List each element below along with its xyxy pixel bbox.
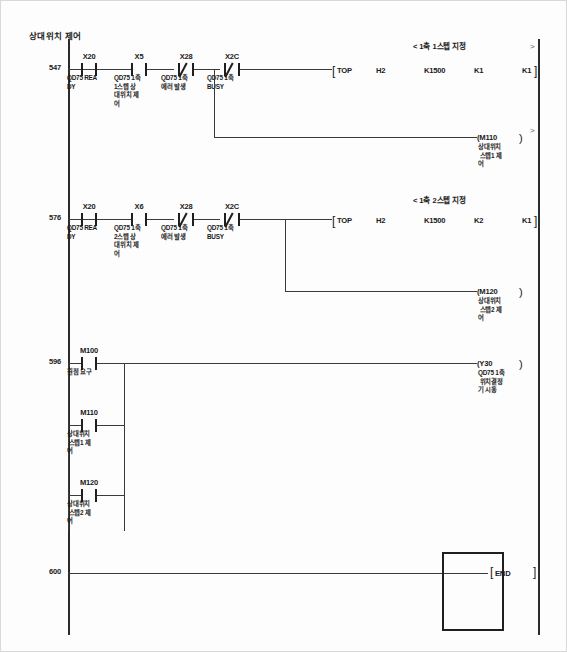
contact-bar-right [145, 213, 147, 226]
coil-comment-m110: 상대위치 스텝1 제 어 [478, 143, 502, 169]
contact-comment-x28-547: QD75 1축 에러 발생 [161, 74, 187, 91]
rung-547-power-line-3 [147, 69, 174, 70]
instruction-arg-0: H2 [376, 66, 385, 75]
coil-close-paren: ) [519, 286, 522, 298]
rung-596-power-line-b [97, 363, 477, 364]
contact-label: M120 [80, 478, 98, 487]
contact-label: X2C [225, 202, 239, 211]
contact-bar-right [192, 63, 194, 76]
rung-547-power-line-4 [194, 69, 220, 70]
contact-comment-x6-576: QD75 1축 2스텝 상 대위치 제 어 [114, 224, 140, 258]
coil-close-paren: ) [519, 358, 522, 370]
contact-label: X28 [180, 202, 193, 211]
rung-number-547: 547 [49, 63, 61, 72]
contact-bar-right [145, 63, 147, 76]
rung-number-576: 576 [49, 213, 61, 222]
rung-547-power-line-2 [97, 69, 126, 70]
instruction-open-bracket: [ [332, 214, 335, 228]
edge-marker-top: > [530, 42, 535, 51]
rung-596-branch-m110-line-b [97, 425, 124, 426]
instruction-opcode: TOP [337, 66, 352, 75]
contact-comment-x2c-576: QD75 1축 BUSY [207, 224, 233, 241]
rung-576-coil-line [285, 291, 477, 292]
contact-label: M110 [80, 408, 98, 417]
rung-576-branch-vertical [285, 219, 286, 291]
contact-comment-x28-576: QD75 1축 에러 발생 [161, 224, 187, 241]
rung-number-596: 596 [49, 357, 61, 366]
instruction-opcode: TOP [337, 216, 352, 225]
instruction-arg-2: K1 [474, 66, 483, 75]
rung-576-power-line-3 [147, 219, 174, 220]
instruction-arg-3: K1 [522, 216, 531, 225]
end-opcode: END [495, 569, 510, 578]
instruction-arg-2: K2 [474, 216, 483, 225]
left-power-rail [68, 39, 70, 635]
contact-comment-m100-596: 원점 요구 [67, 368, 92, 377]
ladder-diagram-page: 상대위치 제어 > > 547 < 1축 1스텝 지정 X20 QD75 REA… [0, 0, 567, 652]
instruction-close-bracket: ] [534, 64, 537, 78]
rung-600-power-line [68, 573, 488, 574]
rung-596-branch-m110-line-a [68, 425, 81, 426]
coil-comment-m120: 상대위치 스텝2 제 어 [478, 297, 502, 323]
contact-label: X6 [135, 202, 144, 211]
instruction-arg-1: K1500 [424, 216, 445, 225]
rung-statement-576: < 1축 2스텝 지정 [413, 194, 466, 205]
coil-y30[interactable]: (Y30 ) [477, 359, 492, 368]
coil-label: M110 [479, 133, 497, 142]
contact-comment-m110-596: 상대위치 스텝1 제 어 [67, 430, 91, 456]
coil-label: M120 [479, 287, 497, 296]
contact-label: X20 [83, 52, 96, 61]
rung-576-power-line-2 [97, 219, 126, 220]
right-power-rail [538, 39, 540, 635]
contact-bar-right [238, 63, 240, 76]
edge-marker-mid: > [530, 126, 535, 135]
contact-bar-right [95, 489, 97, 502]
instruction-arg-1: K1500 [424, 66, 445, 75]
contact-comment-x20-576: QD75 REA DY [67, 224, 97, 241]
page-title: 상대위치 제어 [29, 29, 81, 41]
coil-close-paren: ) [519, 132, 522, 144]
rung-547-branch-vertical [214, 69, 215, 137]
contact-label: M100 [80, 346, 98, 355]
contact-comment-x2c-547: QD75 1축 BUSY [207, 74, 233, 91]
rung-statement-547: < 1축 1스텝 지정 [413, 40, 466, 51]
end-close-bracket: ] [533, 565, 536, 579]
end-open-bracket: [ [490, 565, 493, 579]
rung-547-power-line-5 [240, 69, 332, 70]
rung-576-power-line-5 [240, 219, 332, 220]
rung-576-power-line-4 [194, 219, 220, 220]
rung-596-branch-m120-line-b [97, 495, 124, 496]
contact-label: X5 [135, 52, 144, 61]
rung-596-power-line-a [68, 363, 81, 364]
selection-cursor-box[interactable] [442, 552, 504, 631]
contact-label: X2C [225, 52, 239, 61]
contact-label: X28 [180, 52, 193, 61]
instruction-open-bracket: [ [332, 64, 335, 78]
coil-m120[interactable]: (M120 ) [477, 287, 498, 296]
coil-m110[interactable]: (M110 ) [477, 133, 497, 142]
contact-comment-m120-596: 상대위치 스텝2 제 어 [67, 500, 91, 526]
instruction-close-bracket: ] [534, 214, 537, 228]
contact-comment-x20-547: QD75 REA DY [67, 74, 97, 91]
coil-comment-y30: QD75 1축 위치결정 기 시동 [478, 369, 504, 395]
rung-596-branch-m120-line-a [68, 495, 81, 496]
contact-label: X20 [83, 202, 96, 211]
rung-547-coil-line [214, 137, 477, 138]
rung-596-branch-right-rail [124, 363, 125, 531]
coil-label: Y30 [479, 359, 492, 368]
instruction-arg-0: H2 [376, 216, 385, 225]
instruction-arg-3: K1 [522, 66, 531, 75]
contact-bar-right [95, 357, 97, 370]
rung-number-600: 600 [49, 567, 61, 576]
contact-comment-x5-547: QD75 1축 1스텝 상 대위치 제 어 [114, 74, 140, 108]
contact-bar-right [238, 213, 240, 226]
contact-bar-right [95, 419, 97, 432]
contact-bar-right [192, 213, 194, 226]
